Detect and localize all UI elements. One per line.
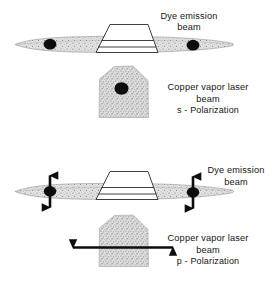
cropped-caption (4, 273, 6, 281)
copper-vapor-beam-p (99, 215, 149, 267)
dye-beam-label-line1-p: Dye emission (208, 165, 265, 175)
panel-p-polarization: Dye emission beam Copper vapor laser bea… (15, 165, 264, 267)
polarization-label-s: s - Polarization (177, 105, 239, 115)
dye-beam-label-line2-s: beam (177, 22, 201, 32)
pump-label-line1-p: Copper vapor laser (168, 233, 249, 243)
dye-beam-label-line2-p: beam (224, 177, 248, 187)
polarization-diagram: Dye emission beam Copper vapor laser bea… (0, 0, 279, 281)
beam-spot-left-p (44, 186, 56, 196)
pump-label-line1-s: Copper vapor laser (168, 82, 249, 92)
beam-spot-left-s (44, 39, 57, 50)
pump-beam-spot-s (115, 82, 129, 94)
figure-root: Dye emission beam Copper vapor laser bea… (0, 0, 279, 281)
beam-spot-right-p (187, 187, 199, 197)
beam-spot-right-s (187, 40, 200, 51)
pump-label-line2-s: beam (196, 94, 220, 104)
pump-label-line2-p: beam (196, 245, 220, 255)
panel-s-polarization: Dye emission beam Copper vapor laser bea… (15, 11, 248, 118)
dye-beam-label-line1-s: Dye emission (161, 11, 218, 21)
polarization-label-p: p - Polarization (177, 256, 239, 266)
dye-cell-prism-p (96, 172, 158, 200)
dye-cell-prism-s (96, 25, 158, 53)
